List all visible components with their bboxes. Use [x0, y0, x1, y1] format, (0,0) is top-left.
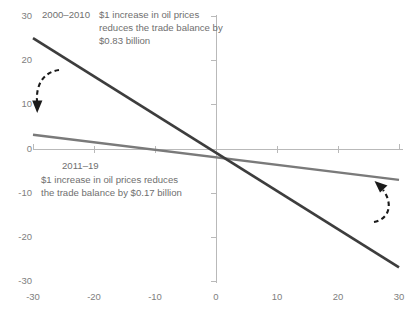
- y-tick-label: -10: [2, 188, 32, 198]
- x-tick-label: -20: [74, 292, 114, 302]
- x-tick-label: 10: [257, 292, 297, 302]
- x-tick-label: 0: [196, 292, 236, 302]
- left-annotation-arrow-icon: [32, 70, 59, 113]
- annotation-period-bottom: 2011–19: [62, 159, 99, 172]
- annotation-period-top: 2000–2010: [42, 8, 90, 21]
- y-tick-label: -30: [2, 276, 32, 286]
- annotation-text-top: $1 increase in oil prices reduces the tr…: [99, 8, 224, 48]
- right-annotation-arrow-icon: [374, 181, 389, 222]
- x-tick-label: 20: [318, 292, 358, 302]
- x-tick-label: 30: [379, 292, 412, 302]
- y-tick-label: -20: [2, 232, 32, 242]
- y-tick-label: 10: [2, 99, 32, 109]
- y-tick-label: 0: [2, 144, 32, 154]
- annotation-text-bottom: $1 increase in oil prices reduces the tr…: [41, 173, 186, 199]
- y-tick-label: 20: [2, 55, 32, 65]
- y-tick-label: 30: [2, 11, 32, 21]
- x-tick-label: -30: [13, 292, 53, 302]
- x-tick-label: -10: [135, 292, 175, 302]
- chart-container: 30 20 10 0 -10 -20 -30 -30 -20 -10 0 10 …: [0, 0, 412, 311]
